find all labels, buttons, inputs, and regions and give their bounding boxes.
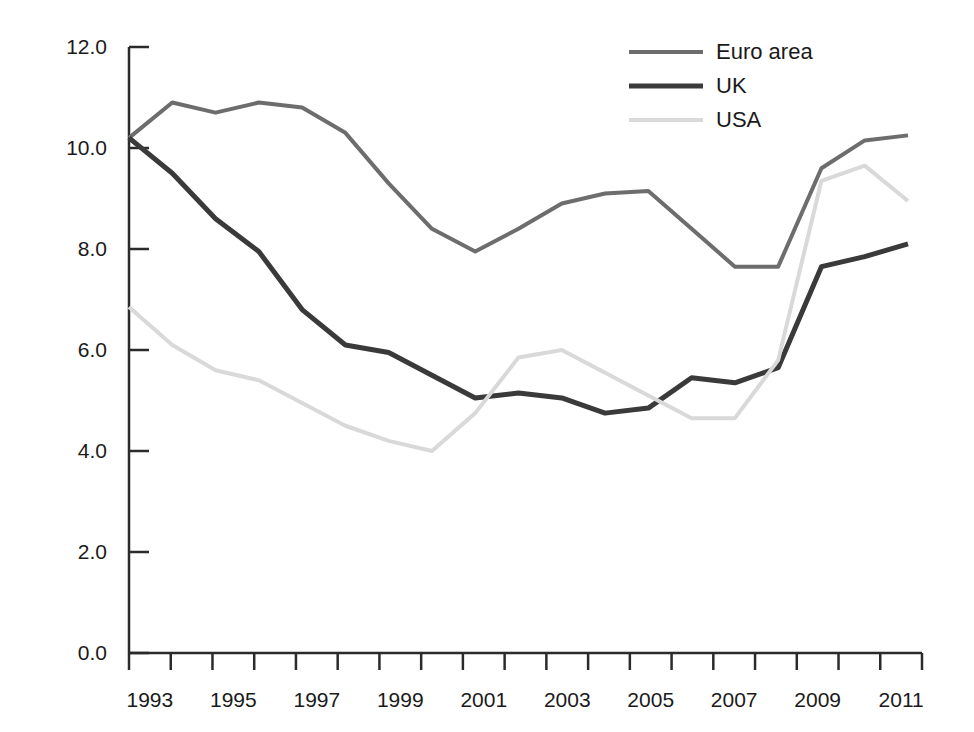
- y-tick-label: 10.0: [66, 136, 107, 159]
- y-tick-label: 12.0: [66, 35, 107, 58]
- y-tick-label: 6.0: [78, 338, 107, 361]
- chart-canvas: 0.02.04.06.08.010.012.0 1993199519971999…: [0, 0, 974, 732]
- x-tick-label: 2009: [794, 688, 841, 711]
- y-tick-label: 0.0: [78, 641, 107, 664]
- x-tick-label: 2001: [460, 688, 507, 711]
- x-tick-label: 2005: [627, 688, 674, 711]
- series-lines: [129, 103, 908, 451]
- x-tick-label: 2011: [879, 688, 924, 711]
- chart-legend: Euro areaUKUSA: [629, 39, 813, 132]
- y-tick-label: 8.0: [78, 237, 107, 260]
- x-tick-label: 1995: [210, 688, 257, 711]
- legend-label-euro-area: Euro area: [716, 39, 813, 64]
- y-tick-label: 2.0: [78, 540, 107, 563]
- x-tick-label: 2007: [711, 688, 758, 711]
- series-line-uk: [129, 138, 908, 413]
- x-tick-label: 1993: [127, 688, 174, 711]
- line-chart: 0.02.04.06.08.010.012.0 1993199519971999…: [0, 0, 974, 732]
- x-axis-tick-labels: 1993199519971999200120032005200720092011: [127, 688, 924, 711]
- series-line-usa: [129, 166, 908, 451]
- x-tick-label: 1999: [377, 688, 424, 711]
- x-axis-group: 1993199519971999200120032005200720092011: [127, 653, 924, 711]
- x-tick-label: 1997: [293, 688, 340, 711]
- legend-label-uk: UK: [716, 73, 747, 98]
- x-axis-ticks: [129, 653, 922, 670]
- x-tick-label: 2003: [544, 688, 591, 711]
- y-tick-label: 4.0: [78, 439, 107, 462]
- y-axis-tick-labels: 0.02.04.06.08.010.012.0: [66, 35, 107, 664]
- legend-label-usa: USA: [716, 107, 762, 132]
